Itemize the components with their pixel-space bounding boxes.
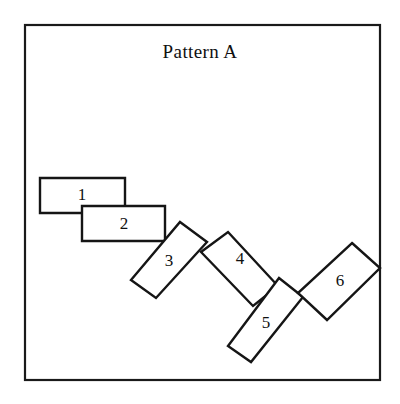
tile-2: 2 <box>82 206 165 241</box>
tile-label-2: 2 <box>120 214 129 233</box>
pattern-diagram-canvas: Pattern A 123456 <box>0 0 400 404</box>
figure-title: Pattern A <box>163 41 238 62</box>
tile-label-4: 4 <box>236 249 245 268</box>
tile-label-3: 3 <box>165 251 174 270</box>
tile-label-5: 5 <box>262 313 271 332</box>
tile-label-1: 1 <box>78 185 87 204</box>
pattern-figure: Pattern A 123456 <box>0 0 400 404</box>
tile-label-6: 6 <box>336 271 345 290</box>
